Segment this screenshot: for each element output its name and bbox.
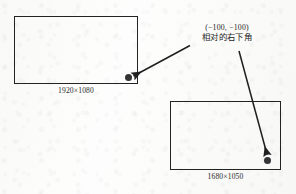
annotation-text-block: (−100, −100) 相对的右下角 xyxy=(184,23,270,43)
corner-dot-secondary xyxy=(264,157,271,164)
screen-caption-1680x1050: 1680×1050 xyxy=(170,172,281,181)
screen-coordinate-diagram: 1920×1080 1680×1050 (−100, −100) 相对的右下角 xyxy=(0,0,296,194)
corner-dot-primary xyxy=(125,74,132,81)
annotation-coordinates: (−100, −100) xyxy=(184,23,270,33)
screen-rectangle-1920x1080 xyxy=(14,16,138,84)
arrow-to-primary-dot xyxy=(134,46,191,77)
annotation-label: 相对的右下角 xyxy=(184,33,270,43)
screen-caption-1920x1080: 1920×1080 xyxy=(14,86,138,95)
